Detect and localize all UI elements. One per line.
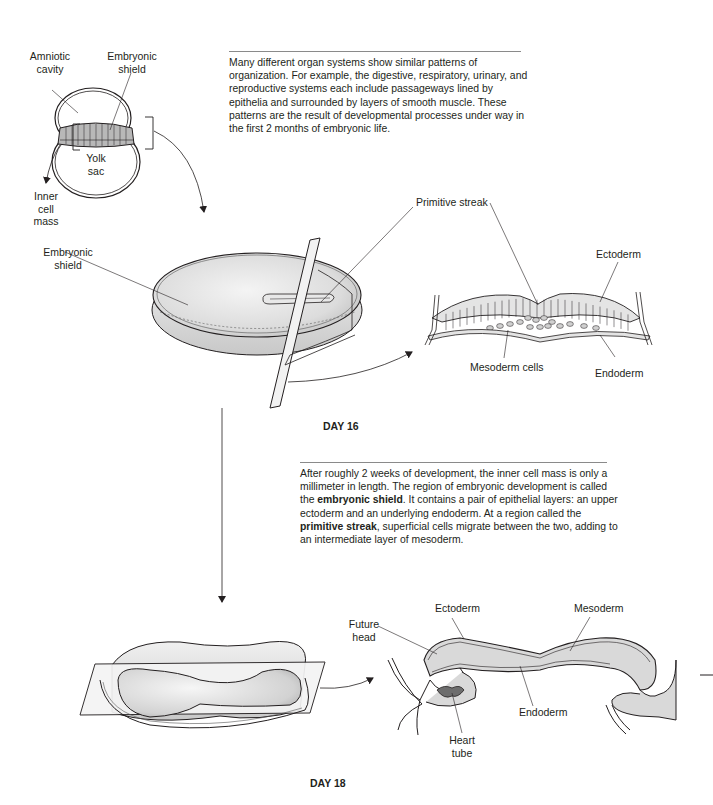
caption-day-16: DAY 16 (323, 420, 359, 432)
label-endoderm-day16: Endoderm (595, 367, 643, 380)
label-ectoderm-day16: Ectoderm (596, 248, 641, 261)
intro-paragraph: Many different organ systems show simila… (229, 56, 529, 135)
label-future-head: Future head (344, 618, 384, 643)
label-ectoderm-day18: Ectoderm (435, 602, 480, 615)
day16-embryonic-disc (65, 207, 413, 408)
mesoderm-cell (593, 326, 600, 331)
endoderm-layer (428, 329, 650, 342)
label-yolk-sac: Yolk sac (78, 152, 114, 177)
day18-embryo (80, 641, 373, 727)
label-amniotic-cavity: Amniotic cavity (20, 50, 80, 75)
blastocyst-to-day16-arrow (154, 131, 204, 212)
label-mesoderm-cells: Mesoderm cells (470, 361, 544, 374)
shield-bracket (145, 117, 153, 149)
mesoderm-cell (545, 324, 552, 329)
mesoderm-cells-cluster (487, 316, 600, 331)
label-mesoderm-day18: Mesoderm (574, 602, 624, 615)
intro-rule (229, 51, 521, 52)
label-inner-cell-mass: Inner cell mass (28, 190, 64, 228)
mesoderm-cell (517, 320, 524, 325)
mesoderm-cell (541, 316, 548, 321)
mesoderm-cell (557, 324, 564, 329)
day16-section-arrow (288, 352, 412, 382)
day16-rule (300, 462, 607, 463)
blastocyst-diagram (46, 73, 204, 212)
mesoderm-cell (527, 325, 534, 330)
day16-paragraph: After roughly 2 weeks of development, th… (300, 467, 620, 546)
label-embryonic-shield-day16: Embryonic shield (36, 246, 100, 271)
mesoderm-cell (581, 324, 588, 329)
mesoderm-cell (567, 322, 574, 327)
label-embryonic-shield-top: Embryonic shield (100, 50, 164, 75)
label-primitive-streak: Primitive streak (416, 196, 488, 209)
term-primitive-streak: primitive streak (300, 521, 377, 532)
day16-cross-section (425, 203, 652, 358)
term-embryonic-shield: embryonic shield (317, 494, 402, 505)
caption-day-18: DAY 18 (310, 777, 346, 789)
mesoderm-cell (537, 325, 544, 330)
label-heart-tube: Heart tube (446, 734, 478, 759)
day18-section-arrow (320, 678, 373, 688)
mesoderm-cell (533, 318, 540, 323)
label-endoderm-day18: Endoderm (519, 706, 567, 719)
mesoderm-cell (525, 316, 532, 321)
mesoderm-cell (497, 324, 504, 329)
mesoderm-cell (507, 322, 514, 327)
